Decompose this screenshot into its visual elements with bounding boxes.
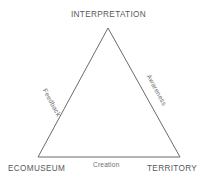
vertex-label-ecomuseum: ECOMUSEUM: [8, 165, 65, 173]
triangle-diagram: INTERPRETATION ECOMUSEUM TERRITORY Feedb…: [0, 0, 217, 182]
edge-label-creation: Creation: [93, 162, 120, 169]
vertex-label-interpretation: INTERPRETATION: [0, 11, 217, 19]
triangle-shape: [0, 0, 217, 182]
vertex-label-territory: TERRITORY: [147, 165, 197, 173]
